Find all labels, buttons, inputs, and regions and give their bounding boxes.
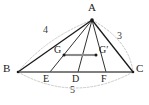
geometry-figure: A B C E D F G G′ 4 3 5: [0, 0, 149, 105]
measure-label-ac: 3: [117, 31, 122, 41]
vertex-label-b: B: [3, 63, 10, 74]
vertex-label-c: C: [136, 63, 143, 74]
vertex-dot-b: [17, 71, 20, 74]
vertex-dot-a: [90, 18, 94, 22]
point-label-e: E: [43, 74, 49, 84]
measure-label-bc: 5: [70, 85, 75, 95]
point-label-g-prime: G′: [99, 45, 108, 55]
point-label-g: G: [54, 45, 61, 55]
vertex-label-a: A: [88, 2, 96, 13]
point-dot-g-prime: [95, 54, 98, 57]
point-label-f: F: [101, 74, 107, 84]
point-dot-g: [63, 54, 66, 57]
vertex-dot-c: [132, 71, 135, 74]
measure-label-ab: 4: [43, 25, 48, 35]
point-label-d: D: [72, 74, 79, 84]
